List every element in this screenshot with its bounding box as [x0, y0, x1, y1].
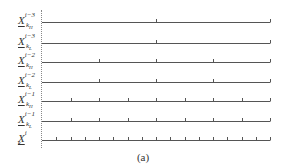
subband-line — [42, 137, 271, 141]
subband-line — [42, 118, 271, 122]
subband-line — [42, 98, 271, 102]
subband-line — [42, 59, 271, 63]
subband-line — [42, 19, 271, 23]
subband-line — [42, 40, 271, 44]
subband-lines — [0, 0, 286, 167]
subband-line — [42, 79, 271, 83]
figure-caption: (a) — [0, 151, 286, 163]
